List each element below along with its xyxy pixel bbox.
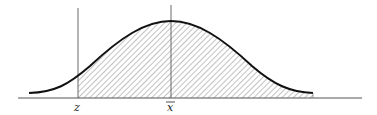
- xbar-label: x: [167, 101, 174, 114]
- normal-curve-diagram: z x: [0, 0, 377, 115]
- z-label: z: [73, 101, 80, 114]
